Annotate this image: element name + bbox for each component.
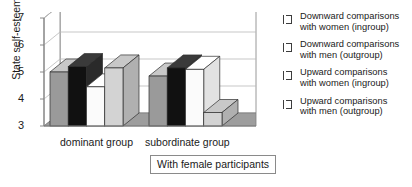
bar-1-4 bbox=[105, 55, 139, 126]
legend-item: Upward comparisons with women (ingroup) bbox=[283, 67, 411, 88]
chart-figure: State self-esteem 76543 dominant group s… bbox=[0, 0, 412, 187]
legend-item: Upward comparisons with men (outgroup) bbox=[283, 96, 411, 117]
plot-area: 76543 bbox=[28, 12, 260, 134]
legend-item: Downward comparisons with men (outgroup) bbox=[283, 39, 411, 60]
legend-label-line2: with women (ingroup) bbox=[300, 78, 389, 88]
chart-legend: Downward comparisons with women (ingroup… bbox=[283, 11, 411, 124]
legend-swatch-downward-men-icon bbox=[283, 43, 292, 52]
y-tick-label: 3 bbox=[12, 119, 24, 131]
legend-label-line1: Upward comparisons bbox=[300, 67, 387, 77]
legend-label: Upward comparisons with men (outgroup) bbox=[300, 96, 387, 117]
legend-label-line2: with men (outgroup) bbox=[300, 106, 383, 116]
y-tick-label: 4 bbox=[12, 92, 24, 104]
legend-label: Upward comparisons with women (ingroup) bbox=[300, 67, 389, 88]
legend-label-line1: Upward comparisons bbox=[300, 96, 387, 106]
legend-label-line2: with women (ingroup) bbox=[300, 22, 389, 32]
legend-item: Downward comparisons with women (ingroup… bbox=[283, 11, 411, 32]
legend-label-line1: Downward comparisons bbox=[300, 11, 399, 21]
legend-label-line1: Downward comparisons bbox=[300, 39, 399, 49]
bar-chart-svg bbox=[28, 12, 260, 134]
x-tick-label-dominant-group: dominant group bbox=[60, 136, 133, 148]
legend-label: Downward comparisons with men (outgroup) bbox=[300, 39, 399, 60]
legend-swatch-upward-women-icon bbox=[283, 71, 292, 80]
y-tick-label: 6 bbox=[12, 38, 24, 50]
legend-swatch-downward-women-icon bbox=[283, 15, 292, 24]
legend-label-line2: with men (outgroup) bbox=[300, 50, 383, 60]
x-tick-label-subordinate-group: subordinate group bbox=[145, 136, 230, 148]
legend-swatch-upward-men-icon bbox=[283, 100, 292, 109]
caption-box: With female participants bbox=[150, 155, 276, 174]
y-tick-label: 5 bbox=[12, 65, 24, 77]
legend-label: Downward comparisons with women (ingroup… bbox=[300, 11, 399, 32]
y-tick-label: 7 bbox=[12, 11, 24, 23]
